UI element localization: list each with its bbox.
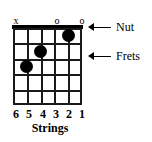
fret-line-1	[13, 43, 82, 45]
string-number-5: 5	[22, 107, 36, 121]
string-number-row: 6 5 4 3 2 1	[0, 107, 152, 121]
left-arrow-icon	[88, 52, 111, 61]
string-number-2: 2	[62, 107, 76, 121]
string-number-1: 1	[75, 107, 89, 121]
finger-dot-string2-fret1	[62, 29, 75, 42]
fretboard	[13, 28, 82, 105]
string-number-4: 4	[36, 107, 50, 121]
finger-dot-string5-fret3	[20, 60, 33, 73]
frets-callout-label: Frets	[111, 49, 140, 63]
fret-line-3	[13, 74, 82, 76]
string-line-1	[80, 28, 82, 105]
fret-line-5	[13, 103, 82, 105]
string-line-4	[41, 28, 43, 105]
fret-line-4	[13, 90, 82, 92]
string-number-6: 6	[9, 107, 23, 121]
strings-caption: Strings	[0, 121, 100, 135]
string-line-6	[13, 28, 15, 105]
string-line-3	[54, 28, 56, 105]
string-number-3: 3	[49, 107, 63, 121]
guitar-chord-diagram: x o o Nut Frets	[0, 0, 152, 142]
left-arrow-icon	[88, 23, 111, 32]
finger-dot-string4-fret2	[34, 45, 47, 58]
frets-callout: Frets	[88, 49, 140, 63]
nut-callout-label: Nut	[111, 20, 134, 34]
nut-callout: Nut	[88, 20, 134, 34]
